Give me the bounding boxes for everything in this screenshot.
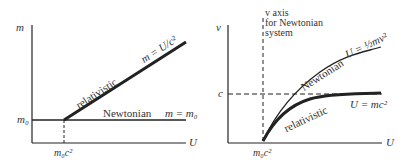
left-x-axis-label: U [189, 137, 197, 148]
right-y-tick-c: c [218, 88, 223, 99]
left-x-tick-m0c2: m₀c² [54, 147, 72, 158]
left-y-tick-m0: m₀ [17, 114, 29, 125]
diagram-canvas [0, 0, 410, 164]
left-y-axis-label: m [16, 22, 24, 33]
left-newtonian-equation: m = m₀ [165, 108, 198, 119]
right-x-tick-m0c2: m₀c² [253, 147, 271, 158]
right-x-axis-label: U [386, 137, 394, 148]
v-axis-note-line3: system [265, 27, 293, 38]
left-newtonian-label: Newtonian [103, 108, 151, 119]
right-y-axis-label: v [216, 22, 221, 33]
right-relativistic-equation: U = mc² [350, 99, 387, 110]
